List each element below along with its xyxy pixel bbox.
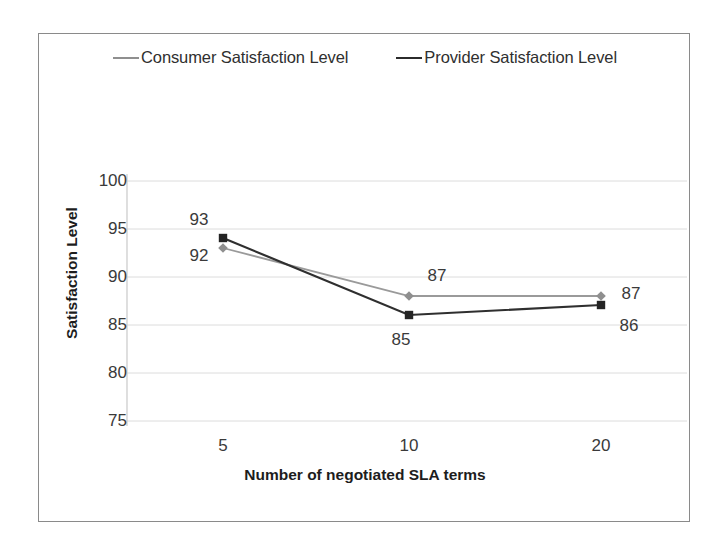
data-label-consumer-10: 87 <box>428 266 447 286</box>
y-tick-100: 100 <box>81 171 127 191</box>
plot-area: 100 95 90 85 80 75 5 10 20 Number of neg… <box>39 34 691 523</box>
data-label-provider-20: 86 <box>620 316 639 336</box>
data-label-consumer-20: 87 <box>622 284 641 304</box>
x-tick-10: 10 <box>379 436 439 456</box>
y-tick-85: 85 <box>81 315 127 335</box>
x-tick-5: 5 <box>193 436 253 456</box>
y-axis-title: Satisfaction Level <box>63 178 81 368</box>
y-tick-90: 90 <box>81 267 127 287</box>
chart-frame: Consumer Satisfaction Level Provider Sat… <box>38 33 690 522</box>
data-label-provider-10: 85 <box>392 330 411 350</box>
x-axis-title: Number of negotiated SLA terms <box>39 466 691 484</box>
y-tick-75: 75 <box>81 411 127 431</box>
data-label-provider-5: 93 <box>190 210 209 230</box>
x-tick-20: 20 <box>571 436 631 456</box>
chart-figure: Consumer Satisfaction Level Provider Sat… <box>0 0 723 549</box>
data-label-consumer-5: 92 <box>190 246 209 266</box>
series-line-consumer <box>218 243 606 301</box>
y-tick-80: 80 <box>81 363 127 383</box>
y-tick-95: 95 <box>81 219 127 239</box>
y-tick-labels: 100 95 90 85 80 75 <box>81 34 127 523</box>
